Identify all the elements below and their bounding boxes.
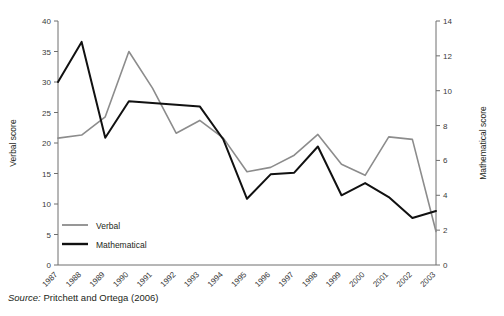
x-tick-label: 2002 <box>395 270 414 289</box>
right-tick-label: 6 <box>443 156 448 165</box>
x-tick-label: 1996 <box>253 270 272 289</box>
legend-label-mathematical: Mathematical <box>96 240 147 250</box>
source-note: Source: Pritchett and Ortega (2006) <box>8 292 159 303</box>
x-tick-label: 1990 <box>111 270 130 289</box>
left-axis-title: Verbal score <box>8 119 18 167</box>
left-tick-label: 20 <box>42 139 51 148</box>
right-tick-label: 2 <box>443 226 448 235</box>
x-tick-label: 2003 <box>418 270 437 289</box>
x-tick-label: 1997 <box>277 270 296 289</box>
source-text: Pritchett and Ortega (2006) <box>41 292 159 303</box>
right-tick-label: 14 <box>443 17 452 26</box>
chart-container: 0510152025303540 02468101214 19871988198… <box>0 0 504 316</box>
left-axis: 0510152025303540 <box>42 17 58 270</box>
right-tick-label: 4 <box>443 191 448 200</box>
left-tick-label: 0 <box>47 261 52 270</box>
right-tick-label: 8 <box>443 122 448 131</box>
left-tick-label: 15 <box>42 170 51 179</box>
x-tick-label: 1993 <box>182 270 201 289</box>
right-axis-title: Mathematical score <box>478 106 488 180</box>
x-tick-label: 1992 <box>159 270 178 289</box>
series-lines <box>58 42 436 232</box>
x-tick-label: 1989 <box>88 270 107 289</box>
x-tick-label: 1999 <box>324 270 343 289</box>
left-tick-label: 10 <box>42 200 51 209</box>
left-tick-label: 30 <box>42 78 51 87</box>
legend-label-verbal: Verbal <box>96 221 120 231</box>
right-tick-label: 0 <box>443 261 448 270</box>
x-tick-label: 1987 <box>40 270 59 289</box>
left-tick-label: 5 <box>47 231 52 240</box>
x-tick-label: 1998 <box>300 270 319 289</box>
x-tick-label: 1988 <box>64 270 83 289</box>
left-tick-label: 25 <box>42 109 51 118</box>
x-tick-label: 1991 <box>135 270 154 289</box>
right-tick-label: 10 <box>443 87 452 96</box>
left-tick-label: 40 <box>42 17 51 26</box>
source-keyword: Source: <box>8 292 41 303</box>
x-axis: 1987198819891990199119921993199419951996… <box>40 265 437 289</box>
x-tick-label: 1995 <box>229 270 248 289</box>
x-tick-label: 2000 <box>348 270 367 289</box>
line-chart: 0510152025303540 02468101214 19871988198… <box>0 0 504 316</box>
right-axis: 02468101214 <box>436 17 452 270</box>
x-tick-label: 2001 <box>371 270 390 289</box>
right-tick-label: 12 <box>443 52 452 61</box>
series-line-verbal <box>58 52 436 232</box>
x-tick-label: 1994 <box>206 270 225 289</box>
chart-legend: VerbalMathematical <box>62 221 147 250</box>
series-line-mathematical <box>58 42 436 218</box>
left-tick-label: 35 <box>42 48 51 57</box>
